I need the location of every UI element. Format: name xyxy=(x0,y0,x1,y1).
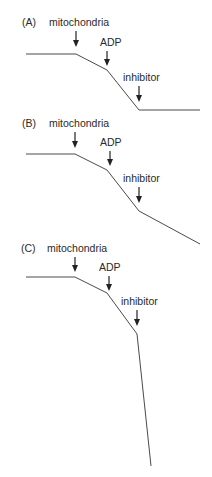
panel-c: (C) mitochondria ADP inhibitor xyxy=(21,242,158,466)
arrow-head-icon xyxy=(72,141,78,148)
arrow-head-icon xyxy=(136,196,142,203)
arrow-head-icon xyxy=(136,95,142,102)
arrow-head-icon xyxy=(72,265,78,272)
arrow-head-icon xyxy=(106,284,112,291)
panel-label: (A) xyxy=(22,16,36,28)
inhibitor-label: inhibitor xyxy=(121,295,158,307)
inhibitor-label: inhibitor xyxy=(123,71,160,83)
panel-label: (C) xyxy=(21,242,36,254)
adp-label: ADP xyxy=(100,136,122,148)
adp-label: ADP xyxy=(100,36,122,48)
arrow-head-icon xyxy=(107,159,113,166)
mitochondria-label: mitochondria xyxy=(49,117,109,129)
panel-a: (A) mitochondria ADP inhibitor xyxy=(22,16,200,110)
adp-label: ADP xyxy=(99,261,121,273)
panel-b: (B) mitochondria ADP inhibitor xyxy=(22,117,200,244)
panel-label: (B) xyxy=(22,117,36,129)
oxygen-trace xyxy=(26,154,200,244)
mitochondria-label: mitochondria xyxy=(49,16,109,28)
arrow-head-icon xyxy=(104,59,110,66)
arrow-head-icon xyxy=(134,319,140,326)
inhibitor-label: inhibitor xyxy=(123,172,160,184)
arrow-head-icon xyxy=(73,40,79,47)
oxygen-consumption-diagram: (A) mitochondria ADP inhibitor (B) mitoc… xyxy=(0,0,212,477)
mitochondria-label: mitochondria xyxy=(47,242,107,254)
oxygen-trace xyxy=(26,54,200,110)
